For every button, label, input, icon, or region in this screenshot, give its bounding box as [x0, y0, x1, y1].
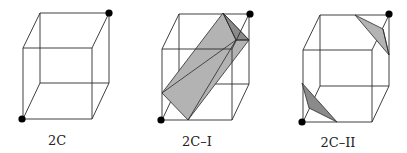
vertex-dot-bottom — [157, 116, 164, 123]
cube-2c-front-face — [23, 48, 92, 119]
label-2c: 2C — [48, 133, 66, 148]
label-2c-i: 2C–I — [182, 134, 212, 149]
cube-2c-ii: 2C–II — [298, 10, 392, 150]
vertex-dot-bottom — [18, 115, 25, 122]
vertex-dot-top — [105, 9, 112, 16]
vertex-dot-bottom — [298, 118, 305, 125]
vertex-dot-top — [385, 10, 392, 17]
cube-2c-i: 2C–I — [157, 10, 253, 149]
label-2c-ii: 2C–II — [321, 135, 356, 150]
cube-2c: 2C — [18, 9, 112, 148]
corner-triangle-bottom — [302, 83, 337, 122]
cube-diagram: 2C 2C–I 2C–II — [0, 0, 407, 153]
vertex-dot-top — [246, 10, 253, 17]
